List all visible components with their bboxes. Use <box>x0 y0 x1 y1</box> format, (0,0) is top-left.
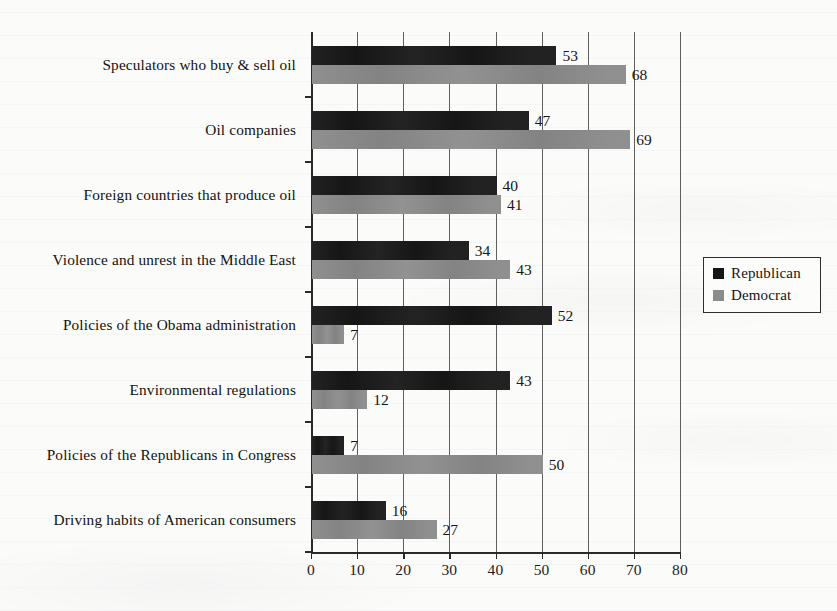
bar-republican-2 <box>312 176 497 195</box>
bar-value-republican-5: 43 <box>511 371 532 390</box>
bar-democrat-2 <box>312 195 501 214</box>
x-tick-70 <box>634 552 635 559</box>
x-tick-50 <box>542 552 543 559</box>
bar-republican-7 <box>312 501 386 520</box>
x-tick-0 <box>311 552 312 559</box>
bar-republican-5 <box>312 371 510 390</box>
bar-value-republican-4: 52 <box>553 306 574 325</box>
bar-democrat-4 <box>312 325 344 344</box>
x-tick-10 <box>357 552 358 559</box>
x-tick-label-20: 20 <box>383 561 423 579</box>
y-tick-3 <box>305 291 311 292</box>
category-label-1: Oil companies <box>0 121 296 139</box>
legend-label-democrat: Democrat <box>731 287 791 304</box>
x-tick-label-60: 60 <box>568 561 608 579</box>
bar-democrat-5 <box>312 390 367 409</box>
x-tick-label-30: 30 <box>429 561 469 579</box>
bar-value-democrat-2: 41 <box>502 195 523 214</box>
chart-legend: Republican Democrat <box>703 257 821 313</box>
category-label-5: Environmental regulations <box>0 381 296 399</box>
category-label-0: Speculators who buy & sell oil <box>0 56 296 74</box>
bar-value-democrat-5: 12 <box>368 390 389 409</box>
x-tick-40 <box>496 552 497 559</box>
legend-swatch-democrat <box>713 290 724 301</box>
bar-democrat-6 <box>312 455 543 474</box>
chart-page: Speculators who buy & sell oilOil compan… <box>0 0 837 611</box>
bar-value-republican-7: 16 <box>387 501 408 520</box>
category-label-7: Driving habits of American consumers <box>0 511 296 529</box>
x-tick-80 <box>680 552 681 559</box>
bar-democrat-0 <box>312 65 626 84</box>
plot-area: 01020304050607080 5368476940413443527431… <box>311 32 680 552</box>
bar-value-democrat-0: 68 <box>627 65 648 84</box>
category-label-3: Violence and unrest in the Middle East <box>0 251 296 269</box>
x-tick-label-50: 50 <box>522 561 562 579</box>
x-tick-label-0: 0 <box>291 561 331 579</box>
bar-republican-6 <box>312 436 344 455</box>
gridline-70 <box>634 32 635 552</box>
x-tick-label-80: 80 <box>660 561 700 579</box>
gridline-80 <box>680 32 681 552</box>
bar-republican-0 <box>312 46 556 65</box>
x-tick-label-40: 40 <box>476 561 516 579</box>
category-label-6: Policies of the Republicans in Congress <box>0 446 296 464</box>
y-tick-0 <box>305 96 311 97</box>
legend-item-democrat: Democrat <box>713 287 791 304</box>
bar-value-republican-6: 7 <box>345 436 358 455</box>
bar-value-republican-0: 53 <box>557 46 578 65</box>
bar-democrat-7 <box>312 520 437 539</box>
y-tick-2 <box>305 226 311 227</box>
y-tick-4 <box>305 356 311 357</box>
bar-republican-4 <box>312 306 552 325</box>
bar-republican-3 <box>312 241 469 260</box>
bar-value-democrat-6: 50 <box>544 455 565 474</box>
legend-item-republican: Republican <box>713 265 801 282</box>
x-tick-20 <box>403 552 404 559</box>
bar-value-democrat-4: 7 <box>345 325 358 344</box>
gridline-60 <box>588 32 589 552</box>
bar-value-republican-1: 47 <box>530 111 551 130</box>
bar-value-democrat-3: 43 <box>511 260 532 279</box>
y-tick-1 <box>305 161 311 162</box>
legend-label-republican: Republican <box>731 265 801 282</box>
x-tick-label-70: 70 <box>614 561 654 579</box>
category-label-4: Policies of the Obama administration <box>0 316 296 334</box>
bar-republican-1 <box>312 111 529 130</box>
y-tick-5 <box>305 421 311 422</box>
x-tick-30 <box>449 552 450 559</box>
bar-democrat-1 <box>312 130 630 149</box>
legend-swatch-republican <box>713 268 724 279</box>
x-tick-label-10: 10 <box>337 561 377 579</box>
bar-democrat-3 <box>312 260 510 279</box>
y-tick-6 <box>305 486 311 487</box>
bar-value-democrat-1: 69 <box>631 130 652 149</box>
x-tick-60 <box>588 552 589 559</box>
category-label-2: Foreign countries that produce oil <box>0 186 296 204</box>
bar-value-democrat-7: 27 <box>438 520 459 539</box>
bar-value-republican-2: 40 <box>498 176 519 195</box>
bar-value-republican-3: 34 <box>470 241 491 260</box>
